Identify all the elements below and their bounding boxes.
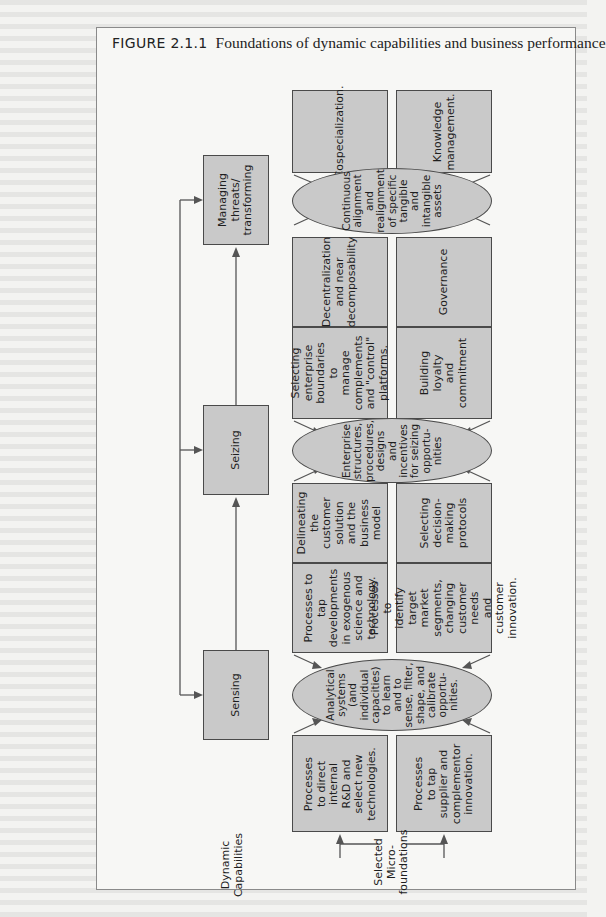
label-dynamic-capabilities-wrap: Dynamic Capabilities	[212, 840, 252, 890]
micro-internal-rd-label: Processes to direct internal R&D and sel…	[303, 747, 378, 821]
micro-supplier-innovation: Processes to tap supplier and complement…	[396, 735, 492, 832]
ellipse-sensing: Analytical systems (and individual capac…	[292, 659, 492, 731]
micro-loyalty-commitment: Building loyalty and commitment	[396, 327, 492, 419]
micro-enterprise-boundaries: Selecting enterprise boundaries to manag…	[292, 327, 388, 419]
micro-decentralization-label: Decentralization and near decomposabilit…	[321, 237, 359, 327]
micro-exogenous-science-label: Processes to tap developments in exogeno…	[303, 569, 378, 647]
ellipse-seizing-label: Enterprise structures, procedures, desig…	[341, 419, 444, 481]
capability-seizing-label: Seizing	[230, 430, 243, 470]
micro-customer-solution: Delineating the customer solution and th…	[292, 483, 388, 563]
micro-knowledge-management-label: Knowledge management.	[432, 93, 457, 170]
label-dynamic-capabilities: Dynamic Capabilities	[220, 833, 245, 897]
capability-sensing-label: Sensing	[230, 673, 243, 716]
micro-internal-rd: Processes to direct internal R&D and sel…	[292, 735, 388, 832]
micro-governance-label: Governance	[438, 249, 451, 315]
ellipse-managing-label: Continuous alignment and realignment of …	[341, 169, 444, 233]
micro-knowledge-management: Knowledge management.	[396, 90, 492, 173]
micro-governance: Governance	[396, 237, 492, 327]
micro-decentralization: Decentralization and near decomposabilit…	[292, 237, 388, 327]
capability-managing-threats: Managing threats/ transforming	[203, 155, 269, 245]
micro-enterprise-boundaries-label: Selecting enterprise boundaries to manag…	[290, 336, 390, 411]
micro-target-market-label: Processes to identify target market segm…	[369, 577, 519, 639]
ellipse-seizing: Enterprise structures, procedures, desig…	[292, 418, 492, 483]
micro-decision-protocols: Selecting decision- making protocols	[396, 483, 492, 563]
micro-cospecialization: Cospecialization.	[292, 90, 388, 173]
micro-supplier-innovation-label: Processes to tap supplier and complement…	[413, 743, 476, 823]
micro-loyalty-commitment-label: Building loyalty and commitment	[419, 338, 469, 408]
micro-decision-protocols-label: Selecting decision- making protocols	[419, 498, 469, 549]
capability-seizing: Seizing	[203, 405, 269, 495]
label-microfoundations-wrap: Selected Micro- foundations	[372, 832, 412, 892]
micro-target-market: Processes to identify target market segm…	[396, 563, 492, 653]
capability-managing-label: Managing threats/ transforming	[217, 165, 255, 236]
label-selected-microfoundations: Selected Micro- foundations	[373, 829, 411, 894]
ellipse-managing: Continuous alignment and realignment of …	[292, 168, 492, 234]
micro-customer-solution-label: Delineating the customer solution and th…	[296, 491, 384, 554]
ellipse-sensing-label: Analytical systems (and individual capac…	[325, 663, 459, 728]
capability-sensing: Sensing	[203, 650, 269, 740]
micro-cospecialization-label: Cospecialization.	[334, 85, 347, 178]
